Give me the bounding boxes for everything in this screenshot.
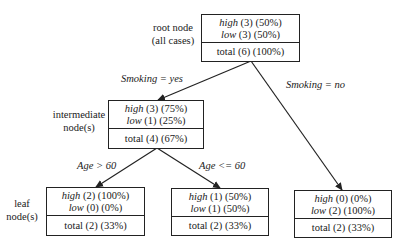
leaf-node-age-gt-60: high (2) (100%) low (0) (0%) total (2) (… xyxy=(46,187,145,236)
leaf-node-label: leaf node(s) xyxy=(2,197,42,223)
leaf2-total: total (2) (33%) xyxy=(172,217,268,235)
root-node: high (3) (50%) low (3) (50%) total (6) (… xyxy=(201,14,300,62)
leaf-label-line1: leaf xyxy=(2,197,42,210)
root-low-row: low (3) (50%) xyxy=(202,29,299,41)
root-label-line2: (all cases) xyxy=(145,34,201,47)
leaf-label-line2: node(s) xyxy=(2,210,42,223)
leaf3-class-counts: high (0) (0%) low (2) (100%) xyxy=(295,191,391,219)
leaf3-low-row: low (2) (100%) xyxy=(295,205,391,217)
root-total: total (6) (100%) xyxy=(202,43,299,61)
intermediate-node: high (3) (75%) low (1) (25%) total (4) (… xyxy=(108,100,204,149)
intermediate-node-label: intermediate node(s) xyxy=(50,108,108,134)
leaf2-high-row: high (1) (50%) xyxy=(172,191,268,203)
leaf-node-smoking-no: high (0) (0%) low (2) (100%) total (2) (… xyxy=(294,190,392,238)
leaf2-class-counts: high (1) (50%) low (1) (50%) xyxy=(172,189,268,217)
root-node-label: root node (all cases) xyxy=(145,21,201,47)
edge-label-age-gt-60: Age > 60 xyxy=(77,160,116,171)
intermediate-low-row: low (1) (25%) xyxy=(109,115,203,127)
root-node-class-counts: high (3) (50%) low (3) (50%) xyxy=(202,15,299,43)
leaf1-total: total (2) (33%) xyxy=(47,216,144,235)
leaf2-low-row: low (1) (50%) xyxy=(172,203,268,215)
leaf3-total: total (2) (33%) xyxy=(295,219,391,237)
root-high-row: high (3) (50%) xyxy=(202,17,299,29)
leaf3-high-row: high (0) (0%) xyxy=(295,193,391,205)
leaf-node-age-le-60: high (1) (50%) low (1) (50%) total (2) (… xyxy=(171,188,269,236)
leaf1-low-row: low (0) (0%) xyxy=(47,202,144,214)
edge-label-smoking-no: Smoking = no xyxy=(286,79,345,90)
leaf1-high-row: high (2) (100%) xyxy=(47,190,144,202)
leaf1-class-counts: high (2) (100%) low (0) (0%) xyxy=(47,188,144,216)
intermediate-high-row: high (3) (75%) xyxy=(109,103,203,115)
intermediate-node-class-counts: high (3) (75%) low (1) (25%) xyxy=(109,101,203,129)
edge-label-age-le-60: Age <= 60 xyxy=(199,160,245,171)
intermediate-label-line2: node(s) xyxy=(50,121,108,134)
intermediate-total: total (4) (67%) xyxy=(109,129,203,148)
edge-label-smoking-yes: Smoking = yes xyxy=(121,73,183,84)
root-label-line1: root node xyxy=(145,21,201,34)
intermediate-label-line1: intermediate xyxy=(50,108,108,121)
